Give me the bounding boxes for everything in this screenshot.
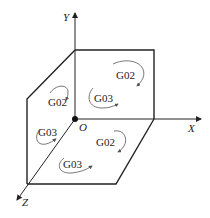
arc-direction-diagram: Y X Z O G02 G03 G02 G03 G02 G03 [0, 0, 210, 218]
label-xy-g02: G02 [116, 69, 135, 81]
label-yz-g03: G03 [38, 126, 57, 138]
x-axis-label: X [187, 122, 196, 134]
label-xz-g03: G03 [63, 158, 82, 170]
label-yz-g02: G02 [48, 96, 67, 108]
origin-point [72, 116, 78, 122]
arc-xz-g02-icon [114, 131, 126, 152]
y-axis-label: Y [63, 11, 71, 23]
origin-label: O [79, 121, 87, 133]
z-axis-label: Z [22, 196, 29, 208]
plane-xy-outline [75, 50, 154, 119]
label-xz-g02: G02 [96, 136, 115, 148]
label-xy-g03: G03 [94, 92, 113, 104]
